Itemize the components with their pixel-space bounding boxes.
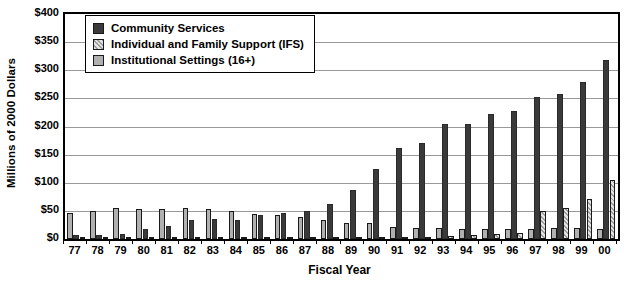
y-axis-tick-label: $150 [35, 147, 59, 159]
legend-label: Community Services [111, 22, 225, 34]
bar-community-services [143, 229, 149, 239]
x-axis-tick-label: 97 [529, 244, 541, 256]
bar-community-services [212, 219, 218, 239]
bar-community-services [488, 114, 494, 239]
bar-ifs [172, 237, 178, 239]
x-axis-tick-label: 89 [345, 244, 357, 256]
bar-ifs [264, 237, 270, 239]
x-axis-tick-label: 82 [184, 244, 196, 256]
x-axis-tick-label: 92 [414, 244, 426, 256]
bar-institutional [136, 209, 142, 239]
bar-institutional [597, 229, 603, 239]
x-axis-title: Fiscal Year [63, 263, 616, 277]
x-axis-tick-label: 00 [598, 244, 610, 256]
bar-institutional [67, 213, 73, 239]
bar-institutional [113, 208, 119, 239]
bar-community-services [96, 235, 102, 239]
year-group [344, 14, 362, 239]
bar-institutional [551, 228, 557, 239]
x-axis-tick-label: 83 [207, 244, 219, 256]
x-axis-tick-label: 91 [391, 244, 403, 256]
bar-ifs [448, 236, 454, 239]
bar-community-services [73, 235, 79, 240]
bar-ifs [517, 233, 523, 239]
x-axis-tick-labels: 7778798081828384858687888990919293949596… [63, 244, 616, 262]
bar-institutional [459, 229, 465, 239]
bar-ifs [563, 208, 569, 239]
bar-institutional [413, 228, 419, 239]
bar-ifs [610, 180, 616, 239]
x-axis-tick-label: 80 [138, 244, 150, 256]
bar-ifs [402, 237, 408, 239]
bar-community-services [419, 143, 425, 239]
bar-institutional [505, 229, 511, 239]
bar-community-services [557, 94, 563, 239]
x-axis-tick-label: 95 [483, 244, 495, 256]
legend-item-community-services: Community Services [93, 20, 304, 36]
bar-ifs [218, 237, 224, 239]
year-group [321, 14, 339, 239]
x-axis-tick-label: 78 [91, 244, 103, 256]
legend-item-institutional: Institutional Settings (16+) [93, 52, 304, 68]
bar-ifs [126, 237, 132, 239]
bar-institutional [298, 217, 304, 240]
x-axis-tick-label: 99 [575, 244, 587, 256]
bar-ifs [356, 237, 362, 239]
y-axis-tick-label: $50 [41, 203, 59, 215]
bar-community-services [120, 234, 126, 239]
bar-community-services [166, 226, 172, 239]
y-axis-tick-label: $350 [35, 34, 59, 46]
legend-label: Institutional Settings (16+) [111, 54, 255, 66]
bar-community-services [511, 111, 517, 239]
year-group [482, 14, 500, 239]
bar-institutional [183, 208, 189, 239]
bar-community-services [327, 204, 333, 239]
bar-institutional [90, 211, 96, 239]
x-axis-tick-label: 96 [506, 244, 518, 256]
bar-ifs [287, 237, 293, 239]
y-axis-tick-label: $300 [35, 62, 59, 74]
bar-community-services [396, 148, 402, 239]
x-axis-tick-label: 81 [161, 244, 173, 256]
year-group [436, 14, 454, 239]
y-axis-title-text: Millions of 2000 Dollars [5, 57, 17, 187]
ifs-swatch-icon [93, 39, 104, 50]
year-group [551, 14, 569, 239]
bar-ifs [425, 237, 431, 239]
year-group [597, 14, 615, 239]
bar-community-services [534, 97, 540, 239]
bar-institutional [321, 220, 327, 239]
year-group [367, 14, 385, 239]
y-axis-tick-label: $0 [47, 231, 59, 243]
x-axis-tick-label: 93 [437, 244, 449, 256]
bar-institutional [206, 209, 212, 239]
bar-community-services [304, 211, 310, 239]
legend-item-ifs: Individual and Family Support (IFS) [93, 36, 304, 52]
bar-institutional [344, 223, 350, 239]
x-axis-tick-label: 84 [230, 244, 242, 256]
year-group [459, 14, 477, 239]
legend-label: Individual and Family Support (IFS) [111, 38, 304, 50]
x-axis-tick-label: 88 [322, 244, 334, 256]
y-axis-tick-label: $100 [35, 175, 59, 187]
bar-community-services [189, 220, 195, 239]
year-group [390, 14, 408, 239]
x-axis-tick-label: 98 [552, 244, 564, 256]
y-axis-title: Millions of 2000 Dollars [0, 0, 22, 245]
bar-community-services [603, 60, 609, 239]
bar-community-services [281, 213, 287, 239]
bar-institutional [367, 223, 373, 239]
year-group [67, 14, 85, 239]
bar-institutional [159, 209, 165, 239]
y-axis-tick-label: $250 [35, 90, 59, 102]
bar-ifs [80, 237, 86, 239]
x-axis-tick-label: 90 [368, 244, 380, 256]
year-group [413, 14, 431, 239]
bar-institutional [482, 229, 488, 239]
bar-ifs [103, 237, 109, 239]
bar-community-services [373, 169, 379, 239]
bar-ifs [310, 237, 316, 239]
x-axis-tick-mark [616, 239, 617, 244]
community-services-swatch-icon [93, 23, 104, 34]
y-axis-tick-label: $400 [35, 6, 59, 18]
